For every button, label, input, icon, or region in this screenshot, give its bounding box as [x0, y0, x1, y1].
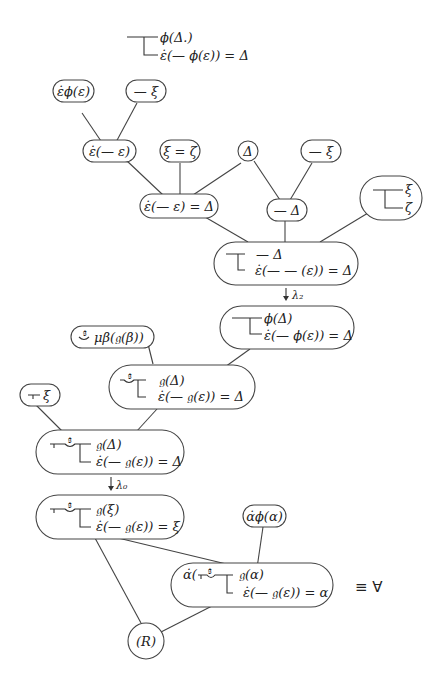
edge: [320, 213, 368, 242]
svg-text:λ₂: λ₂: [291, 289, 303, 302]
node-assert-xi: ξ: [20, 384, 60, 406]
svg-text:α̇ϕ(α): α̇ϕ(α): [246, 509, 283, 524]
header-formula: ϕ(Δ.) ε̇(— ϕ(ε)) = Δ: [127, 30, 249, 63]
node-eps-phi: ε̇ϕ(ε): [53, 80, 94, 102]
edge: [161, 606, 212, 632]
svg-text:𝔤: 𝔤: [128, 371, 132, 380]
svg-text:𝔤(α): 𝔤(α): [239, 567, 264, 582]
svg-text:𝔤(ξ): 𝔤(ξ): [96, 502, 119, 517]
node-alpha-definition: α̇( 𝔤 𝔤(α) ε̇(— 𝔤(ε)) = α: [171, 563, 333, 607]
svg-text:Δ: Δ: [242, 144, 252, 159]
edge: [126, 160, 163, 195]
svg-text:— Δ: — Δ: [274, 203, 301, 218]
node-eps-neg-eps-eq-delta: ε̇(— ε) = Δ: [140, 194, 218, 218]
node-conditional-xi-zeta: ξ ζ: [360, 176, 422, 220]
svg-text:ζ: ζ: [405, 200, 413, 215]
svg-text:ε̇(— ε) = Δ: ε̇(— ε) = Δ: [144, 199, 214, 214]
svg-text:𝔤: 𝔤: [83, 328, 87, 337]
svg-text:α̇(: α̇(: [183, 567, 198, 582]
edge: [115, 103, 137, 144]
svg-text:ε̇(— 𝔤(ε)) = Δ: ε̇(— 𝔤(ε)) = Δ: [96, 454, 182, 469]
node-neg-xi-right: — ξ: [301, 140, 341, 162]
node-neg-xi-top: — ξ: [126, 80, 166, 102]
svg-text:— Δ: — Δ: [256, 247, 283, 262]
svg-text:λ₀: λ₀: [115, 479, 128, 492]
conditional-stroke: [127, 37, 158, 55]
node-g-xi: 𝔤 𝔤(ξ) ε̇(— 𝔤(ε)) = ξ: [36, 495, 184, 539]
node-neg-delta: — Δ: [267, 199, 307, 221]
svg-text:ε̇(— — (ε)) = Δ: ε̇(— — (ε)) = Δ: [255, 263, 352, 278]
edge: [254, 161, 280, 200]
node-merged: — Δ ε̇(— — (ε)) = Δ: [214, 242, 358, 285]
svg-text:(R): (R): [136, 634, 156, 649]
svg-text:ε̇(— 𝔤(ε)) = α: ε̇(— 𝔤(ε)) = α: [243, 585, 329, 600]
edge: [136, 409, 157, 432]
edge: [257, 527, 263, 568]
header-line-2: ε̇(— ϕ(ε)) = Δ: [160, 48, 249, 63]
svg-text:𝔤: 𝔤: [68, 435, 72, 444]
edge: [95, 538, 141, 623]
svg-text:ξ = ζ: ξ = ζ: [163, 144, 197, 159]
svg-text:ξ: ξ: [405, 182, 413, 197]
svg-text:ε̇(— ε): ε̇(— ε): [89, 144, 130, 159]
svg-text:ε̇(— ϕ(ε)) = Δ: ε̇(— ϕ(ε)) = Δ: [264, 328, 353, 343]
svg-text:ϕ(Δ): ϕ(Δ): [264, 311, 292, 326]
equiv-forall-label: ≡ ∀: [355, 578, 383, 596]
node-g-delta-1: 𝔤 𝔤(Δ) ε̇(— 𝔤(ε)) = Δ: [109, 365, 255, 409]
svg-text:ε̇ϕ(ε): ε̇ϕ(ε): [57, 84, 90, 99]
svg-text:— ξ: — ξ: [309, 144, 334, 159]
node-alpha-phi: α̇ϕ(α): [243, 505, 286, 527]
edge: [82, 113, 103, 144]
header-line-1: ϕ(Δ.): [160, 30, 193, 45]
arrow-lambda0: λ₀: [108, 477, 128, 492]
node-eps-neg-eps: ε̇(— ε): [83, 140, 136, 162]
node-g-delta-2: 𝔤 𝔤(Δ) ε̇(— 𝔤(ε)) = Δ: [36, 430, 184, 474]
svg-text:𝔤: 𝔤: [208, 566, 212, 575]
edge: [290, 163, 312, 200]
node-phi: ϕ(Δ) ε̇(— ϕ(ε)) = Δ: [220, 306, 354, 349]
node-rule-r: (R): [128, 623, 164, 659]
derivation-diagram: ϕ(Δ.) ε̇(— ϕ(ε)) = Δ ε̇ϕ(ε) — ξ ε̇(— ε): [0, 0, 448, 687]
svg-text:μβ(𝔤(β)): μβ(𝔤(β)): [94, 330, 144, 345]
svg-text:— ξ: — ξ: [134, 84, 159, 99]
node-mu-beta: 𝔤 μβ(𝔤(β)): [71, 326, 154, 348]
node-xi-eq-zeta: ξ = ζ: [160, 140, 200, 162]
svg-text:ε̇(— 𝔤(ε)) = ξ: ε̇(— 𝔤(ε)) = ξ: [96, 519, 181, 534]
edge: [193, 163, 241, 195]
node-delta: Δ: [238, 141, 258, 161]
edge: [205, 217, 248, 242]
svg-text:ε̇(— 𝔤(ε)) = Δ: ε̇(— 𝔤(ε)) = Δ: [158, 389, 244, 404]
arrow-lambda2: λ₂: [283, 288, 303, 302]
svg-text:ξ: ξ: [43, 388, 51, 403]
svg-text:𝔤(Δ): 𝔤(Δ): [96, 437, 122, 452]
edge: [35, 404, 63, 432]
svg-text:𝔤(Δ): 𝔤(Δ): [159, 373, 185, 388]
svg-text:𝔤: 𝔤: [68, 500, 72, 509]
